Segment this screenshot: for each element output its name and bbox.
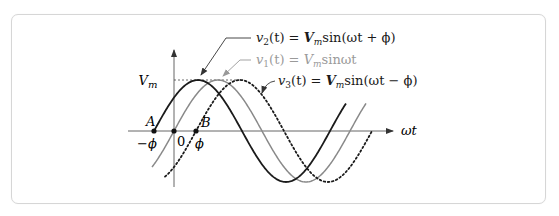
point-A [151,128,156,133]
label-neg-phi: −ϕ [137,136,157,151]
equation-v3: v3(t) = Vmsin(ωt − ϕ) [278,73,417,90]
label-zero: 0 [177,134,185,149]
point-origin [171,128,176,133]
v3-leader-line [262,81,275,93]
label-A: A [145,114,155,129]
v1-leader-line [223,60,251,76]
x-axis-label-omega-t: ωt [401,123,418,138]
label-B: B [200,115,211,130]
equation-v1: v1(t) = Vmsinωt [256,52,357,69]
sinusoid-diagram: Vm A B −ϕ 0 ϕ ωt v2(t) = Vmsin(ωt + ϕ) v… [0,0,559,216]
vm-label: Vm [139,73,158,90]
v2-leader-line [201,38,251,75]
label-phi: ϕ [195,136,204,151]
point-B [193,128,198,133]
equation-v2: v2(t) = Vmsin(ωt + ϕ) [256,30,395,47]
